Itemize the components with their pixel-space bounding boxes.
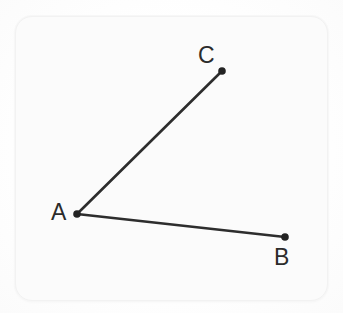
- vertex-dot-b: [281, 233, 289, 241]
- segment-ac: [77, 71, 222, 214]
- vertex-label-a: A: [51, 201, 66, 224]
- segment-group: [77, 71, 285, 237]
- vertex-label-b: B: [274, 246, 289, 269]
- vertex-dot-a: [73, 210, 81, 218]
- vertex-group: [73, 67, 289, 241]
- diagram-canvas: A B C: [0, 0, 343, 313]
- vertex-dot-c: [218, 67, 226, 75]
- segment-ab: [77, 214, 285, 237]
- vertex-label-c: C: [198, 44, 215, 67]
- angle-figure: [0, 0, 343, 313]
